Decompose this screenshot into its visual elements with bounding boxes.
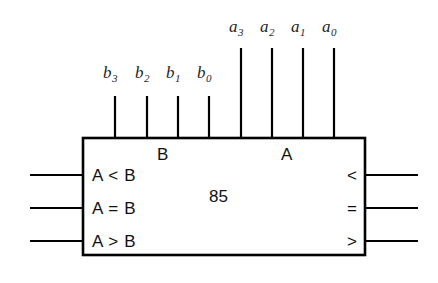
pin-label-b1: b1 xyxy=(166,64,180,81)
pin-label-b2: b2 xyxy=(135,64,149,81)
group-label-a: A xyxy=(281,146,292,163)
pin-label-a0: a0 xyxy=(322,18,336,35)
pin-label-b3: b3 xyxy=(103,64,117,81)
pin-label-a3: a3 xyxy=(229,18,243,35)
pin-label-a2: a2 xyxy=(260,18,274,35)
output-label-lt: < xyxy=(345,167,357,184)
schematic-svg xyxy=(0,0,438,283)
input-label-a-lt-b: A < B xyxy=(92,167,136,184)
right-output-wires xyxy=(364,175,418,241)
input-label-a-eq-b: A = B xyxy=(92,200,136,217)
output-label-gt: > xyxy=(345,233,357,250)
comparator-diagram: b3 b2 b1 b0 a3 a2 a1 a0 B A 85 A < B A =… xyxy=(0,0,438,283)
top-pin-wires xyxy=(115,48,334,139)
device-number-label: 85 xyxy=(209,188,228,205)
input-label-a-gt-b: A > B xyxy=(92,233,136,250)
left-input-wires xyxy=(30,175,84,241)
group-label-b: B xyxy=(157,146,168,163)
pin-label-b0: b0 xyxy=(197,64,211,81)
pin-label-a1: a1 xyxy=(291,18,305,35)
output-label-eq: = xyxy=(345,200,357,217)
